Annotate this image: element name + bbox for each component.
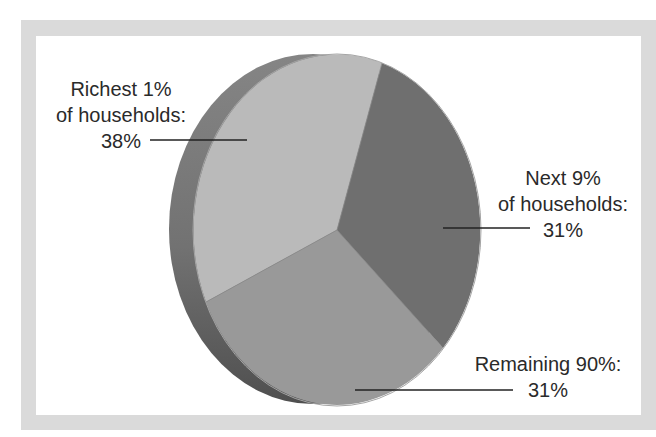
label-next-value: 31% <box>490 217 636 243</box>
label-remaining-value: 31% <box>466 377 630 403</box>
label-richest-line1: Richest 1% <box>48 76 194 102</box>
label-next-line2: of households: <box>490 191 636 217</box>
label-remaining: Remaining 90%: 31% <box>466 351 630 403</box>
label-richest-line2: of households: <box>48 102 194 128</box>
label-next: Next 9% of households: 31% <box>490 165 636 243</box>
label-richest: Richest 1% of households: 38% <box>48 76 194 154</box>
label-next-line1: Next 9% <box>490 165 636 191</box>
label-remaining-line1: Remaining 90%: <box>466 351 630 377</box>
label-richest-value: 38% <box>48 128 194 154</box>
